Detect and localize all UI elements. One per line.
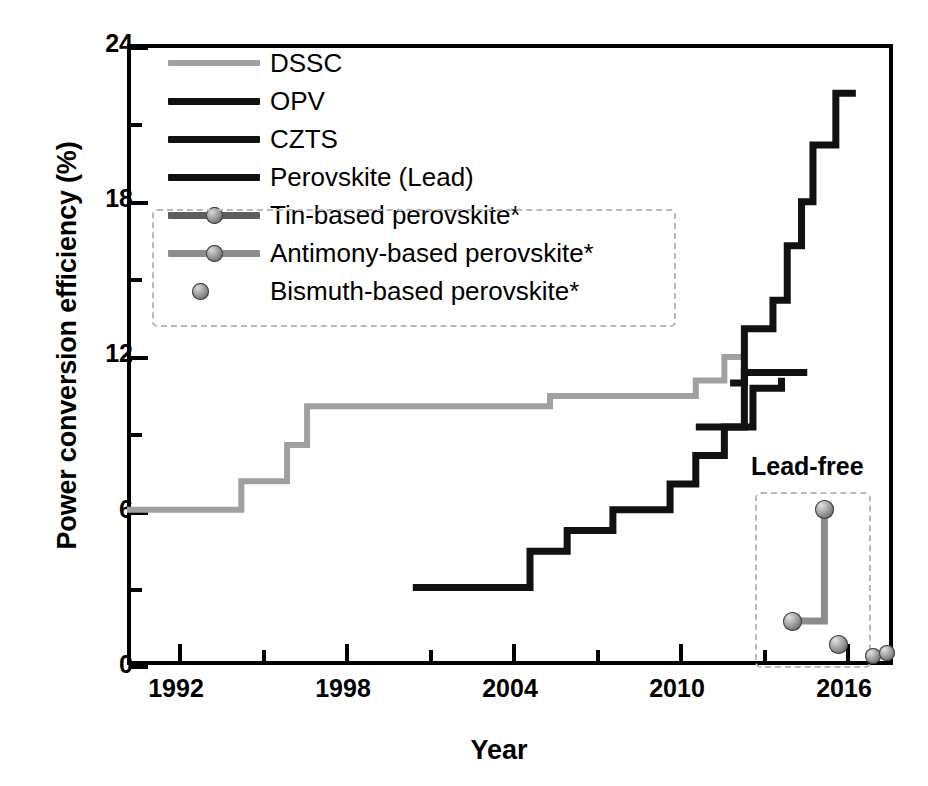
y-tick-3 xyxy=(131,588,142,592)
x-tick-label-2004: 2004 xyxy=(450,676,570,701)
chart-container: Power conversion efficiency (%) Year 24 … xyxy=(0,0,928,786)
legend-key-czts xyxy=(168,120,260,158)
legend-label-perovskite-lead: Perovskite (Lead) xyxy=(270,164,474,190)
x-tick-label-1992: 1992 xyxy=(116,676,236,701)
y-tick-18 xyxy=(131,201,148,205)
legend-key-bismuth-based-perovskite xyxy=(168,272,260,310)
y-tick-label-12: 12 xyxy=(53,341,133,366)
y-tick-9 xyxy=(131,433,142,437)
x-tick-2007 xyxy=(596,650,600,661)
x-tick-label-2010: 2010 xyxy=(617,676,737,701)
x-tick-1995 xyxy=(262,650,266,661)
legend-item-antimony-based-perovskite[interactable]: Antimony-based perovskite* xyxy=(168,234,594,272)
legend-item-opv[interactable]: OPV xyxy=(168,82,594,120)
data-point-tin-based-perovskite xyxy=(783,612,802,631)
y-tick-24 xyxy=(131,46,148,50)
data-point-antimony-based-perovskite xyxy=(829,635,848,654)
x-tick-label-2016: 2016 xyxy=(784,676,904,701)
legend-label-bismuth-based-perovskite: Bismuth-based perovskite* xyxy=(270,278,579,304)
x-tick-2010 xyxy=(679,644,683,661)
legend-item-tin-based-perovskite[interactable]: Tin-based perovskite* xyxy=(168,196,594,234)
legend-key-antimony-based-perovskite xyxy=(168,234,260,272)
legend-key-dssc xyxy=(168,44,260,82)
legend-item-dssc[interactable]: DSSC xyxy=(168,44,594,82)
x-tick-label-1998: 1998 xyxy=(283,676,403,701)
lead-free-annotation: Lead-free xyxy=(751,452,864,481)
x-tick-2001 xyxy=(429,650,433,661)
chart-legend: DSSC OPV CZTS Perovskite (Lead) xyxy=(168,44,594,310)
y-tick-label-6: 6 xyxy=(53,497,133,522)
lead-free-region-box xyxy=(755,492,871,668)
x-axis-title-text: Year xyxy=(470,735,527,766)
legend-key-perovskite-lead xyxy=(168,158,260,196)
legend-item-bismuth-based-perovskite[interactable]: Bismuth-based perovskite* xyxy=(168,272,594,310)
y-tick-12 xyxy=(131,356,148,360)
y-tick-label-0: 0 xyxy=(53,652,133,677)
legend-marker-sphere-antimony xyxy=(206,245,223,262)
y-tick-label-24: 24 xyxy=(53,31,133,56)
y-tick-0 xyxy=(131,665,148,669)
x-tick-1998 xyxy=(345,644,349,661)
y-tick-21 xyxy=(131,123,142,127)
y-tick-label-18: 18 xyxy=(53,186,133,211)
x-tick-1992 xyxy=(178,644,182,661)
legend-label-tin-based-perovskite: Tin-based perovskite* xyxy=(270,202,521,228)
legend-marker-sphere-bismuth xyxy=(192,283,209,300)
y-tick-15 xyxy=(131,278,142,282)
legend-label-dssc: DSSC xyxy=(270,50,342,76)
x-tick-2004 xyxy=(512,644,516,661)
data-point-tin-based-perovskite xyxy=(815,500,834,519)
x-axis-title: Year xyxy=(0,735,928,766)
legend-label-antimony-based-perovskite: Antimony-based perovskite* xyxy=(270,240,594,266)
legend-item-czts[interactable]: CZTS xyxy=(168,120,594,158)
legend-key-tin-based-perovskite xyxy=(168,196,260,234)
legend-label-opv: OPV xyxy=(270,88,325,114)
legend-label-czts: CZTS xyxy=(270,126,338,152)
legend-item-perovskite-lead[interactable]: Perovskite (Lead) xyxy=(168,158,594,196)
y-tick-6 xyxy=(131,511,148,515)
legend-marker-sphere-tin xyxy=(206,207,223,224)
legend-key-opv xyxy=(168,82,260,120)
